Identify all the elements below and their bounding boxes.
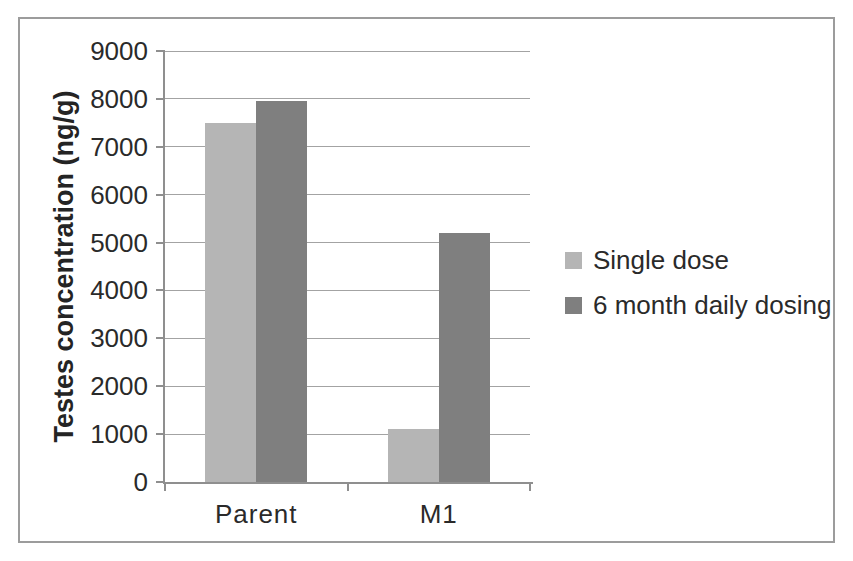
y-tick-label-9000: 9000 (24, 36, 148, 66)
y-tick-1000 (156, 433, 165, 435)
x-tick-0 (164, 482, 166, 491)
gridline-y9000 (165, 51, 530, 52)
x-category-label-parent: Parent (176, 499, 336, 530)
chart-figure: Testes concentration (ng/g) 010002000300… (18, 17, 835, 543)
bar-parent-single-dose (205, 123, 256, 482)
y-tick-label-1000: 1000 (24, 419, 148, 449)
x-tick-2 (529, 482, 531, 491)
legend-marker-6-month-daily-dosing (565, 297, 582, 314)
legend-label-6-month-daily-dosing: 6 month daily dosing (593, 290, 831, 321)
y-tick-9000 (156, 50, 165, 52)
legend-item-single-dose: Single dose (565, 245, 831, 275)
y-tick-6000 (156, 194, 165, 196)
y-tick-5000 (156, 242, 165, 244)
bar-m1-single-dose (388, 429, 439, 482)
y-tick-2000 (156, 385, 165, 387)
plot-area: 0100020003000400050006000700080009000Par… (165, 51, 530, 482)
y-tick-label-3000: 3000 (24, 323, 148, 353)
y-tick-label-5000: 5000 (24, 228, 148, 258)
legend-marker-single-dose (565, 252, 582, 269)
x-category-label-m1: M1 (359, 499, 519, 530)
legend: Single dose 6 month daily dosing (565, 245, 831, 320)
y-tick-label-6000: 6000 (24, 180, 148, 210)
gridline-y8000 (165, 98, 530, 99)
bar-m1-6-month-daily-dosing (439, 233, 490, 482)
y-tick-4000 (156, 289, 165, 291)
y-tick-8000 (156, 98, 165, 100)
y-tick-label-4000: 4000 (24, 275, 148, 305)
x-tick-1 (347, 482, 349, 491)
y-tick-label-0: 0 (24, 467, 148, 497)
y-tick-7000 (156, 146, 165, 148)
y-tick-label-7000: 7000 (24, 132, 148, 162)
y-tick-label-2000: 2000 (24, 371, 148, 401)
legend-label-single-dose: Single dose (593, 245, 729, 276)
y-axis-line (163, 51, 165, 484)
y-axis-title: Testes concentration (ng/g) (38, 51, 90, 482)
legend-item-6-month-daily-dosing: 6 month daily dosing (565, 290, 831, 320)
y-tick-3000 (156, 337, 165, 339)
bar-parent-6-month-daily-dosing (256, 101, 307, 482)
y-tick-label-8000: 8000 (24, 84, 148, 114)
